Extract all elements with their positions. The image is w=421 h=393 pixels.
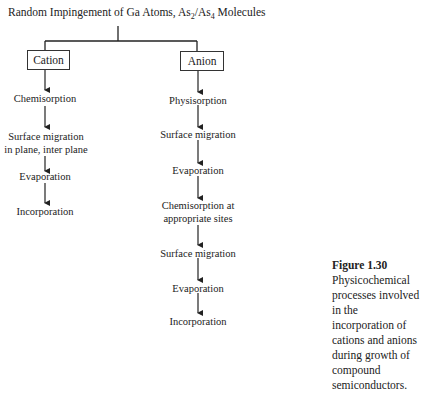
diagram-title: Random Impingement of Ga Atoms, As2/As4 … bbox=[8, 6, 265, 21]
cation-step-chemisorption: Chemisorption bbox=[0, 93, 90, 106]
cation-step-incorporation: Incorporation bbox=[0, 206, 90, 219]
anion-box: Anion bbox=[180, 51, 224, 71]
anion-step-surface-migration-1: Surface migration bbox=[153, 129, 243, 142]
cation-box: Cation bbox=[27, 50, 70, 70]
anion-step-physisorption: Physisorption bbox=[153, 95, 243, 108]
anion-step-evaporation-2: Evaporation bbox=[153, 283, 243, 296]
figure-label: Figure 1.30 bbox=[332, 259, 387, 271]
anion-step-incorporation: Incorporation bbox=[153, 316, 243, 329]
cation-step-evaporation: Evaporation bbox=[0, 171, 90, 184]
caption-text: Physicochemical processes involved in th… bbox=[332, 274, 419, 391]
anion-step-chemisorption: Chemisorption at appropriate sites bbox=[153, 200, 243, 225]
anion-step-evaporation-1: Evaporation bbox=[153, 165, 243, 178]
anion-step-surface-migration-2: Surface migration bbox=[153, 248, 243, 261]
figure-caption: Figure 1.30 Physicochemical processes in… bbox=[332, 258, 421, 393]
cation-step-surface-migration: Surface migration in plane, inter plane bbox=[0, 131, 92, 156]
